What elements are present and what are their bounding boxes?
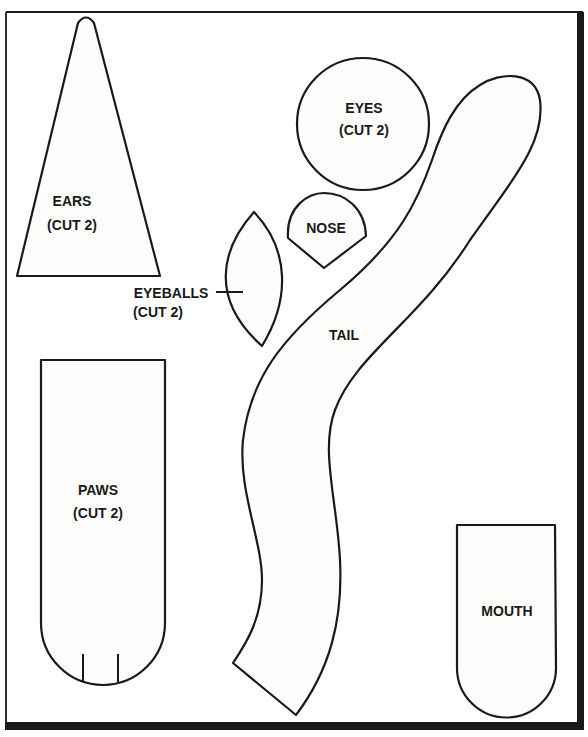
paws-label: PAWS (78, 482, 118, 498)
mouth-label: MOUTH (481, 603, 532, 619)
eyes-label: EYES (345, 100, 382, 116)
mouth-piece: MOUTH (457, 525, 556, 718)
eyes-piece: EYES (CUT 2) (297, 58, 429, 190)
tail-label: TAIL (329, 327, 360, 343)
paws-note: (CUT 2) (73, 505, 123, 521)
ears-label: EARS (53, 193, 92, 209)
nose-label: NOSE (306, 220, 346, 236)
eyeballs-note: (CUT 2) (133, 304, 183, 320)
eyes-note: (CUT 2) (339, 122, 389, 138)
paws-piece: PAWS (CUT 2) (41, 360, 165, 685)
pattern-sheet: EARS (CUT 2) TAIL EYES (CUT 2) NOSE EYEB… (0, 0, 588, 737)
ears-note: (CUT 2) (47, 217, 97, 233)
eyeballs-label: EYEBALLS (134, 285, 209, 301)
